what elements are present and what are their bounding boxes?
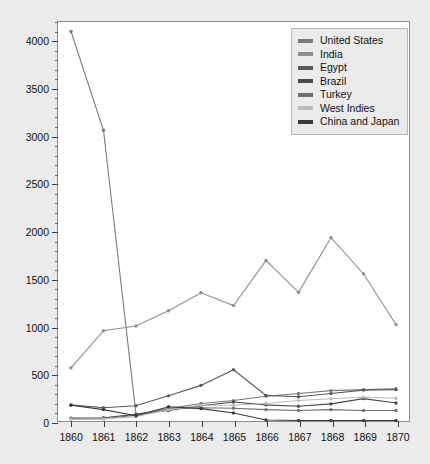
legend-item[interactable]: United States [298, 34, 399, 48]
data-point [394, 401, 397, 404]
y-tick-label: 3000 [26, 131, 49, 143]
data-point [329, 419, 332, 422]
legend-swatch-icon [298, 52, 313, 56]
x-tick-major [71, 421, 72, 427]
y-tick-label: 1500 [26, 274, 49, 286]
legend-item[interactable]: Turkey [298, 88, 399, 102]
legend-item[interactable]: West Indies [298, 102, 399, 116]
x-tick-label: 1866 [255, 431, 278, 443]
legend-label: Turkey [320, 88, 352, 102]
data-point [102, 408, 105, 411]
data-point [232, 411, 235, 414]
data-point [232, 404, 235, 407]
x-tick-major [104, 421, 105, 427]
legend-label: China and Japan [320, 115, 399, 129]
legend-label: West Indies [320, 102, 375, 116]
data-point [362, 272, 365, 275]
data-point [297, 392, 300, 395]
data-point [362, 388, 365, 391]
legend-item[interactable]: Brazil [298, 75, 399, 89]
data-point [362, 409, 365, 412]
x-tick-label: 1865 [223, 431, 246, 443]
x-tick-label: 1867 [288, 431, 311, 443]
data-point [167, 394, 170, 397]
data-point [199, 407, 202, 410]
x-tick-label: 1869 [354, 431, 377, 443]
x-tick-label: 1864 [190, 431, 213, 443]
legend-label: United States [320, 34, 383, 48]
x-tick-major [169, 421, 170, 427]
data-point [232, 400, 235, 403]
data-point [362, 419, 365, 422]
data-point [102, 329, 105, 332]
y-tick-label: 0 [43, 417, 49, 429]
data-point [297, 405, 300, 408]
data-point [264, 418, 267, 421]
chart-figure: Cotton imports per thousand 400-pound ba… [0, 0, 430, 464]
data-point [394, 419, 397, 422]
series-line [71, 238, 396, 368]
data-point [199, 384, 202, 387]
legend-item[interactable]: Egypt [298, 61, 399, 75]
y-tick-label: 4000 [26, 35, 49, 47]
x-tick-label: 1860 [59, 431, 82, 443]
x-tick-label: 1861 [92, 431, 115, 443]
legend-swatch-icon [298, 79, 313, 83]
data-point [264, 259, 267, 262]
data-point [297, 399, 300, 402]
data-point [297, 409, 300, 412]
legend-item[interactable]: India [298, 48, 399, 62]
data-point [167, 309, 170, 312]
data-point [69, 30, 72, 33]
legend-label: India [320, 48, 343, 62]
legend-swatch-icon [298, 66, 313, 70]
legend-swatch-icon [298, 106, 313, 110]
data-point [199, 291, 202, 294]
data-point [167, 405, 170, 408]
y-tick-label: 1000 [26, 322, 49, 334]
y-tick-label: 500 [31, 369, 49, 381]
legend-swatch-icon [298, 93, 313, 97]
data-point [264, 408, 267, 411]
data-point [264, 394, 267, 397]
x-tick-label: 1863 [157, 431, 180, 443]
y-tick-label: 2500 [26, 178, 49, 190]
data-point [102, 129, 105, 132]
data-point [394, 409, 397, 412]
data-point [394, 397, 397, 400]
data-point [232, 304, 235, 307]
data-point [329, 408, 332, 411]
data-point [297, 419, 300, 422]
x-tick-major [267, 421, 268, 427]
x-tick-major [398, 421, 399, 427]
y-tick-label: 3500 [26, 83, 49, 95]
data-point [69, 366, 72, 369]
x-tick-major [333, 421, 334, 427]
chart-legend: United StatesIndiaEgyptBrazilTurkeyWest … [291, 28, 408, 135]
x-tick-label: 1870 [386, 431, 409, 443]
data-point [264, 402, 267, 405]
data-point [134, 404, 137, 407]
legend-item[interactable]: China and Japan [298, 115, 399, 129]
y-tick-major [52, 423, 58, 424]
legend-swatch-icon [298, 39, 313, 43]
data-point [329, 402, 332, 405]
x-tick-label: 1862 [125, 431, 148, 443]
y-tick-label: 2000 [26, 226, 49, 238]
x-tick-major [365, 421, 366, 427]
data-point [394, 388, 397, 391]
x-tick-major [202, 421, 203, 427]
data-point [362, 396, 365, 399]
data-point [329, 236, 332, 239]
data-point [297, 291, 300, 294]
data-point [394, 323, 397, 326]
data-point [102, 417, 105, 420]
legend-label: Egypt [320, 61, 347, 75]
data-point [329, 397, 332, 400]
legend-swatch-icon [298, 120, 313, 124]
data-point [134, 414, 137, 417]
x-tick-major [235, 421, 236, 427]
x-tick-major [136, 421, 137, 427]
legend-label: Brazil [320, 75, 346, 89]
data-point [134, 324, 137, 327]
